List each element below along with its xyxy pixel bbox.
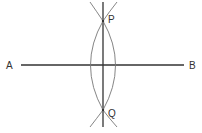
label-q: Q [108,109,116,119]
label-a: A [6,61,13,71]
construction-figure [0,0,202,133]
label-p: P [108,15,115,25]
diagram-canvas: A B P Q [0,0,202,133]
arc-top-left [90,2,103,21]
label-b: B [189,61,196,71]
point-p-dot [102,20,104,22]
point-q-dot [102,109,104,111]
arc-bottom-left [90,110,103,127]
